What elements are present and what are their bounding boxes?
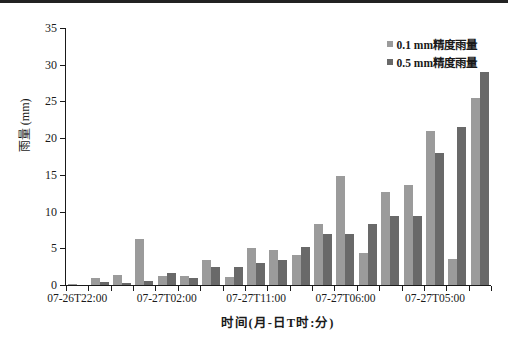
x-axis-tick-label: 07-27T11:00 bbox=[226, 292, 286, 304]
bar-series2-group5 bbox=[167, 273, 176, 285]
bar-series2-group10 bbox=[278, 260, 287, 285]
bar-series1-group6 bbox=[180, 276, 189, 285]
legend-swatch-icon bbox=[387, 59, 393, 65]
legend-label: 0.1 mm精度雨量 bbox=[397, 36, 477, 52]
bar-series1-group4 bbox=[135, 239, 144, 285]
x-axis-tick bbox=[88, 286, 89, 291]
bar-series2-group7 bbox=[211, 267, 220, 285]
x-axis-tick bbox=[111, 286, 112, 291]
rainfall-bar-chart-figure: 雨量 (mm) 05101520253035 07-26T22:0007-27T… bbox=[0, 0, 508, 345]
y-axis-tick-label: 5 bbox=[51, 241, 57, 256]
bar-group bbox=[334, 28, 356, 285]
bar-group bbox=[178, 28, 200, 285]
x-axis-tick bbox=[267, 286, 268, 291]
x-axis-tick-label: 07-27T06:00 bbox=[316, 292, 376, 304]
y-axis-tick bbox=[60, 101, 66, 102]
bar-group bbox=[133, 28, 155, 285]
x-axis-tick-label: 07-27T05:00 bbox=[405, 292, 465, 304]
legend-label: 0.5 mm精度雨量 bbox=[397, 54, 477, 70]
bar-series1-group1 bbox=[68, 284, 77, 285]
bar-series2-group17 bbox=[435, 153, 444, 285]
bar-series1-group17 bbox=[426, 131, 435, 285]
y-axis-tick bbox=[60, 28, 66, 29]
x-axis-tick bbox=[424, 286, 425, 291]
x-axis-tick bbox=[178, 286, 179, 291]
x-axis-tick bbox=[223, 286, 224, 291]
bar-series1-group10 bbox=[269, 250, 278, 285]
bar-series1-group9 bbox=[247, 248, 256, 285]
bar-group bbox=[245, 28, 267, 285]
x-axis-tick bbox=[491, 286, 492, 291]
bar-series2-group13 bbox=[345, 234, 354, 285]
x-axis-tick bbox=[133, 286, 134, 291]
bar-series1-group16 bbox=[404, 185, 413, 285]
legend-swatch-icon bbox=[387, 41, 393, 47]
bar-series1-group14 bbox=[359, 253, 368, 285]
y-axis-tick-label: 35 bbox=[45, 21, 57, 36]
bar-series2-group6 bbox=[189, 278, 198, 285]
y-axis-tick bbox=[60, 212, 66, 213]
x-axis-tick-label: 07-26T22:00 bbox=[47, 292, 107, 304]
bar-group bbox=[111, 28, 133, 285]
bar-series2-group11 bbox=[301, 247, 310, 285]
bar-series2-group8 bbox=[234, 267, 243, 285]
bar-group bbox=[66, 28, 88, 285]
bar-group bbox=[223, 28, 245, 285]
x-axis-tick bbox=[66, 286, 67, 291]
plot-area: 05101520253035 07-26T22:0007-27T02:0007-… bbox=[65, 28, 491, 286]
bar-series1-group8 bbox=[225, 277, 234, 285]
x-axis-tick bbox=[334, 286, 335, 291]
x-axis-tick bbox=[290, 286, 291, 291]
bar-series2-group19 bbox=[480, 72, 489, 285]
y-axis-tick-label: 15 bbox=[45, 167, 57, 182]
y-axis-tick bbox=[60, 138, 66, 139]
bar-series1-group12 bbox=[314, 224, 323, 285]
y-axis-tick-label: 0 bbox=[51, 278, 57, 293]
bar-series2-group3 bbox=[122, 283, 131, 285]
y-axis-tick bbox=[60, 175, 66, 176]
bar-series2-group16 bbox=[413, 216, 422, 285]
y-axis-tick-label: 20 bbox=[45, 131, 57, 146]
chart-legend: 0.1 mm精度雨量0.5 mm精度雨量 bbox=[387, 36, 477, 70]
bar-series1-group15 bbox=[381, 192, 390, 285]
bar-series2-group9 bbox=[256, 263, 265, 285]
x-axis-tick bbox=[446, 286, 447, 291]
bar-series1-group18 bbox=[448, 259, 457, 285]
x-axis-tick bbox=[200, 286, 201, 291]
bar-series1-group19 bbox=[471, 98, 480, 285]
x-axis-tick bbox=[155, 286, 156, 291]
bar-series2-group18 bbox=[457, 127, 466, 285]
x-axis-tick bbox=[357, 286, 358, 291]
bar-series1-group5 bbox=[158, 276, 167, 285]
bar-group bbox=[357, 28, 379, 285]
y-axis-tick bbox=[60, 248, 66, 249]
y-axis-tick bbox=[60, 65, 66, 66]
legend-item-series1: 0.1 mm精度雨量 bbox=[387, 36, 477, 52]
y-axis-tick-label: 25 bbox=[45, 94, 57, 109]
y-axis-tick-label: 10 bbox=[45, 204, 57, 219]
bar-series1-group13 bbox=[336, 176, 345, 285]
x-axis-tick bbox=[312, 286, 313, 291]
bar-series1-group7 bbox=[202, 260, 211, 285]
bar-group bbox=[290, 28, 312, 285]
bar-series1-group2 bbox=[91, 278, 100, 285]
bar-series2-group12 bbox=[323, 234, 332, 285]
bar-series2-group15 bbox=[390, 216, 399, 285]
x-axis-tick bbox=[469, 286, 470, 291]
x-axis-title: 时间(月-日T时:分) bbox=[65, 312, 490, 331]
x-axis-tick bbox=[245, 286, 246, 291]
bar-series1-group11 bbox=[292, 255, 301, 285]
y-axis-title: 雨量 (mm) bbox=[15, 98, 33, 152]
x-axis-tick bbox=[379, 286, 380, 291]
page-top-border bbox=[0, 0, 508, 3]
bar-group bbox=[155, 28, 177, 285]
y-axis-tick-label: 30 bbox=[45, 57, 57, 72]
legend-item-series2: 0.5 mm精度雨量 bbox=[387, 54, 477, 70]
bar-group bbox=[88, 28, 110, 285]
bar-series2-group14 bbox=[368, 224, 377, 285]
bar-group bbox=[267, 28, 289, 285]
bar-series2-group4 bbox=[144, 281, 153, 285]
bar-series2-group2 bbox=[100, 282, 109, 285]
bar-series1-group3 bbox=[113, 275, 122, 285]
bar-group bbox=[312, 28, 334, 285]
